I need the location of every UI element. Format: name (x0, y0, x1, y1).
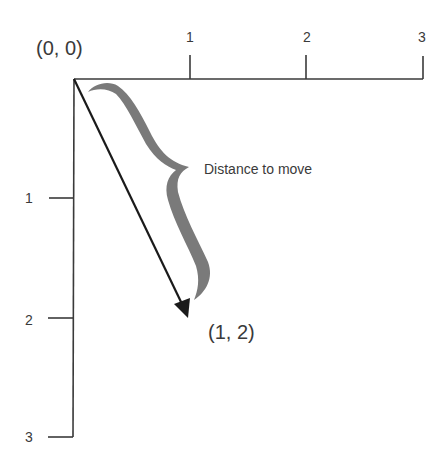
curly-brace-icon (88, 83, 210, 300)
coordinate-diagram (0, 0, 448, 464)
y-tick-label-3: 3 (25, 430, 33, 444)
vector-shaft (74, 79, 182, 304)
origin-label: (0, 0) (36, 38, 83, 58)
arrowhead-icon (174, 298, 190, 318)
endpoint-label: (1, 2) (208, 322, 255, 342)
y-axis (48, 79, 74, 437)
brace-label: Distance to move (204, 162, 312, 176)
x-axis (74, 55, 423, 79)
x-tick-label-1: 1 (186, 30, 194, 44)
y-tick-label-1: 1 (25, 191, 33, 205)
y-axis-line (73, 79, 74, 437)
y-tick-label-2: 2 (25, 313, 33, 327)
x-tick-label-2: 2 (303, 30, 311, 44)
x-tick-label-3: 3 (418, 30, 426, 44)
